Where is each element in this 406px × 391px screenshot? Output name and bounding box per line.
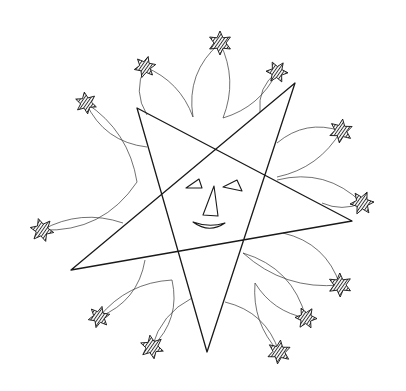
small-star-icon	[295, 308, 317, 328]
shooting-star-trails	[42, 43, 362, 352]
star-drawing	[0, 0, 406, 391]
shooting-star-trail	[277, 177, 362, 203]
shooting-star-trail	[277, 131, 341, 177]
shooting-star-trail	[86, 103, 137, 182]
shooting-stars	[30, 31, 374, 364]
shooting-star-trail	[225, 302, 279, 352]
shooting-star-trail	[42, 217, 123, 230]
small-star-icon	[268, 340, 290, 364]
shooting-star-trail	[243, 253, 306, 318]
star-face	[186, 179, 242, 228]
right-eye	[223, 180, 242, 191]
shooting-star-trail	[283, 233, 340, 285]
smile	[193, 222, 225, 228]
small-star-icon	[330, 273, 351, 297]
nose	[203, 186, 218, 216]
shooting-star-trail	[255, 283, 279, 352]
shooting-star-trail	[220, 43, 230, 118]
shooting-star-trail	[192, 43, 220, 117]
small-star-icon	[30, 219, 53, 242]
small-star-icon	[210, 31, 231, 55]
small-star-icon	[76, 92, 97, 114]
shooting-star-trail	[152, 298, 192, 347]
small-star-icon	[88, 306, 109, 327]
shooting-star-trail	[223, 72, 277, 118]
shooting-star-trail	[255, 283, 306, 318]
small-star-icon	[330, 119, 352, 143]
small-star-icon	[134, 57, 155, 78]
left-eye	[186, 179, 202, 188]
shooting-star-trail	[99, 260, 145, 317]
